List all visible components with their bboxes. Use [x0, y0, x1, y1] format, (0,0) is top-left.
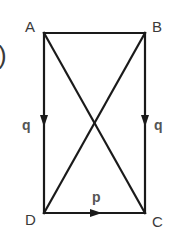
- rectangle-vector-diagram: ) A B D C q q p: [0, 0, 177, 238]
- vector-label-q-left: q: [22, 117, 31, 133]
- partial-parenthesis: ): [0, 40, 7, 70]
- vector-label-p: p: [92, 189, 101, 205]
- vector-label-q-right: q: [154, 117, 163, 133]
- arrow-right-icon: [90, 209, 102, 217]
- vertex-label-a: A: [25, 18, 35, 35]
- vertex-label-d: D: [25, 211, 36, 228]
- arrow-down-icon: [40, 115, 48, 127]
- vertex-label-c: C: [152, 213, 163, 230]
- vertex-label-b: B: [152, 18, 162, 35]
- arrow-down-icon: [141, 115, 149, 127]
